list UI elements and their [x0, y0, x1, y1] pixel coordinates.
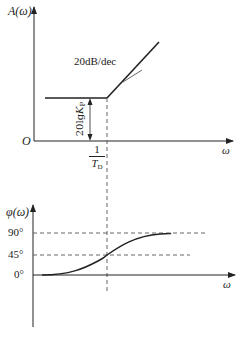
phase-x-axis-label: ω	[223, 278, 231, 290]
magnitude-y-axis-label: A(ω)	[8, 4, 32, 19]
gain-label-var: K	[74, 106, 85, 113]
magnitude-rising-asymptote	[107, 42, 159, 98]
phase-curve	[42, 234, 171, 276]
break-frequency-numerator: 1	[89, 144, 105, 155]
phase-tick-0: 0°	[14, 268, 24, 280]
slope-leader-line	[123, 70, 142, 82]
gain-arrow-up-icon	[88, 98, 93, 105]
phase-y-axis-label: φ(ω)	[6, 205, 29, 220]
bode-diagram	[0, 0, 246, 337]
break-frequency-label: 1 TD	[89, 144, 105, 173]
gain-label-sub: P	[79, 102, 87, 107]
phase-tick-45: 45°	[8, 248, 23, 260]
magnitude-x-axis-label: ω	[222, 144, 230, 156]
break-frequency-sub: D	[98, 163, 103, 171]
gain-label: 20lgKP	[74, 97, 86, 141]
phase-tick-90: 90°	[8, 226, 23, 238]
gain-arrow-down-icon	[88, 134, 93, 141]
slope-label: 20dB/dec	[74, 55, 116, 67]
gain-label-text: 20lg	[74, 114, 85, 136]
origin-label: O	[22, 134, 31, 149]
